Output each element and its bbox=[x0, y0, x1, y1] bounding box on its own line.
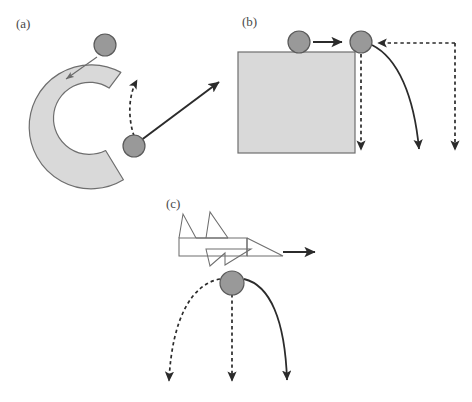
ball-dropped bbox=[220, 271, 244, 295]
dashed-curved-exit-arrow bbox=[130, 80, 137, 136]
solid-curved-fall-arrow bbox=[372, 45, 419, 149]
panel-c-label: (c) bbox=[166, 196, 180, 211]
table-block bbox=[238, 52, 355, 153]
airplane-wireframe bbox=[179, 212, 283, 266]
figure-root: (a) (b) bbox=[0, 0, 472, 402]
panel-b-label: (b) bbox=[242, 14, 257, 29]
dashed-backward-curve-arrow bbox=[169, 279, 220, 381]
solid-straight-exit-arrow bbox=[136, 82, 219, 144]
panel-c: (c) bbox=[166, 196, 315, 381]
ball-on-block bbox=[288, 31, 310, 53]
ball-entering bbox=[94, 34, 116, 56]
ball-at-edge bbox=[350, 31, 372, 53]
panel-b: (b) bbox=[238, 14, 455, 153]
solid-forward-curve-arrow bbox=[244, 279, 287, 380]
panel-a-label: (a) bbox=[16, 16, 30, 31]
ball-exiting bbox=[123, 135, 145, 157]
panel-a: (a) bbox=[16, 16, 219, 189]
curved-tube bbox=[29, 65, 123, 189]
figure-canvas: (a) (b) bbox=[0, 0, 472, 402]
